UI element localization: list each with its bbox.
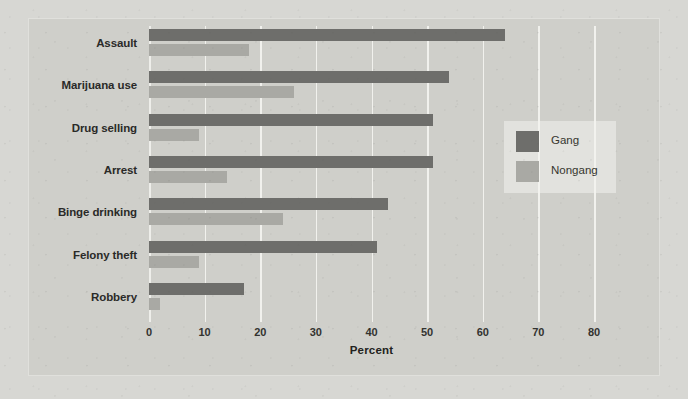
category-label-arrest: Arrest: [104, 164, 137, 177]
chart-legend: Gang Nongang: [504, 121, 616, 193]
category-label-assault: Assault: [96, 37, 137, 50]
bar-gang-assault: [149, 29, 505, 41]
bar-row: Felony theft: [149, 241, 594, 277]
bar-gang-felony-theft: [149, 241, 377, 253]
category-label-marijuana-use: Marijuana use: [62, 79, 137, 92]
x-tick-label-40: 40: [365, 326, 377, 338]
x-tick-label-60: 60: [477, 326, 489, 338]
category-label-robbery: Robbery: [91, 291, 137, 304]
bar-nongang-marijuana-use: [149, 86, 294, 98]
legend-label-nongang: Nongang: [551, 164, 598, 176]
bar-nongang-arrest: [149, 171, 227, 183]
bar-row: Robbery: [149, 283, 594, 319]
x-axis-ticks: Percent 01020304050607080: [149, 322, 594, 342]
plot-frame: AssaultMarijuana useDrug sellingArrestBi…: [28, 18, 660, 376]
category-label-binge-drinking: Binge drinking: [58, 206, 137, 219]
legend-swatch-gang-icon: [516, 131, 539, 152]
x-tick-label-30: 30: [310, 326, 322, 338]
bar-nongang-binge-drinking: [149, 213, 283, 225]
x-tick-label-10: 10: [199, 326, 211, 338]
bar-nongang-drug-selling: [149, 129, 199, 141]
bar-gang-robbery: [149, 283, 244, 295]
x-tick-label-70: 70: [532, 326, 544, 338]
category-label-felony-theft: Felony theft: [73, 249, 137, 262]
x-tick-label-50: 50: [421, 326, 433, 338]
legend-swatch-nongang-icon: [516, 161, 539, 182]
bar-gang-marijuana-use: [149, 71, 449, 83]
x-tick-label-20: 20: [254, 326, 266, 338]
bar-nongang-robbery: [149, 298, 160, 310]
bar-nongang-felony-theft: [149, 256, 199, 268]
bar-gang-drug-selling: [149, 114, 433, 126]
bar-row: Binge drinking: [149, 198, 594, 234]
bar-row: Assault: [149, 29, 594, 65]
bar-nongang-assault: [149, 44, 249, 56]
category-label-drug-selling: Drug selling: [72, 122, 137, 135]
bar-gang-arrest: [149, 156, 433, 168]
x-tick-label-0: 0: [146, 326, 152, 338]
bar-row: Marijuana use: [149, 71, 594, 107]
plot-area: AssaultMarijuana useDrug sellingArrestBi…: [149, 26, 594, 322]
x-axis-title: Percent: [350, 344, 394, 356]
legend-label-gang: Gang: [551, 134, 579, 146]
x-tick-label-80: 80: [588, 326, 600, 338]
bar-gang-binge-drinking: [149, 198, 388, 210]
chart-figure: AssaultMarijuana useDrug sellingArrestBi…: [0, 0, 688, 399]
